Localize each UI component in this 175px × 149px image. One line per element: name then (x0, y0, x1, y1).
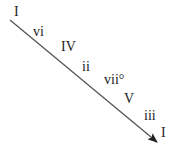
label-I-start: I (14, 5, 19, 19)
label-iii: iii (144, 109, 156, 123)
label-I-end: I (161, 126, 166, 140)
label-ii: ii (82, 60, 90, 74)
label-vii-dim: vii° (104, 73, 124, 87)
label-V: V (124, 92, 134, 106)
label-vi: vi (33, 25, 44, 39)
progression-arrow (0, 0, 175, 149)
label-IV: IV (61, 40, 76, 54)
